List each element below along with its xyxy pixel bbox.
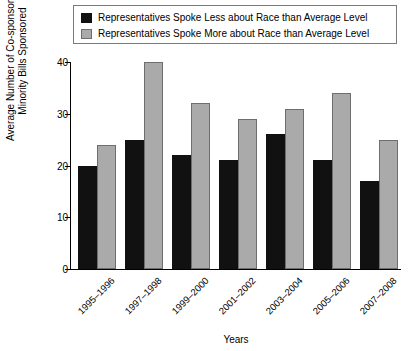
bar-spoke-less (172, 155, 191, 269)
bar-group (313, 62, 351, 269)
bar-group (125, 62, 163, 269)
bar-spoke-more (332, 93, 351, 269)
y-axis-line (70, 62, 71, 269)
legend-label-spoke-less: Representatives Spoke Less about Race th… (98, 12, 367, 23)
bar-spoke-less (313, 160, 332, 269)
y-axis-title-line-1: Average Number of Co-sponsors on (5, 0, 17, 166)
bar-chart-figure: Representatives Spoke Less about Race th… (0, 0, 411, 351)
legend-swatch-black-square (81, 13, 92, 23)
x-axis-title: Years (71, 334, 401, 345)
legend-item-spoke-more: Representatives Spoke More about Race th… (81, 26, 389, 41)
bar-group (172, 62, 210, 269)
x-tick-label: 2001–2002 (216, 275, 257, 316)
y-axis-title-line-2: Minority Bills Sponsored (17, 7, 28, 114)
bar-spoke-less (125, 140, 144, 269)
x-tick-label: 2005–2006 (311, 275, 352, 316)
x-axis-line (70, 269, 401, 270)
x-tick-label: 2007–2008 (358, 275, 399, 316)
bar-spoke-more (191, 103, 210, 269)
y-tick-label: 40 (57, 57, 68, 68)
legend-label-spoke-more: Representatives Spoke More about Race th… (98, 28, 369, 39)
x-tick-label: 1995–1996 (75, 275, 116, 316)
y-tick-label: 0 (62, 264, 68, 275)
x-tick-label: 2003–2004 (264, 275, 305, 316)
y-tick-label: 10 (57, 212, 68, 223)
bar-spoke-more (238, 119, 257, 269)
bar-group (78, 62, 116, 269)
bar-spoke-more (285, 109, 304, 269)
bar-spoke-more (379, 140, 398, 269)
bar-spoke-more (144, 62, 163, 269)
chart-legend: Representatives Spoke Less about Race th… (73, 5, 397, 44)
bar-spoke-more (97, 145, 116, 269)
bar-group (266, 62, 304, 269)
bar-spoke-less (219, 160, 238, 269)
legend-item-spoke-less: Representatives Spoke Less about Race th… (81, 10, 389, 25)
legend-swatch-gray-square (81, 29, 92, 39)
bar-group (360, 62, 398, 269)
x-tick-label: 1997–1998 (122, 275, 163, 316)
bar-spoke-less (360, 181, 379, 269)
bar-spoke-less (78, 166, 97, 270)
plot-area: 010203040 1995–19961997–19981999–2000200… (71, 62, 401, 269)
x-tick-label: 1999–2000 (169, 275, 210, 316)
y-axis-title: Average Number of Co-sponsors on Minorit… (5, 0, 29, 166)
bar-spoke-less (266, 134, 285, 269)
y-tick-label: 30 (57, 108, 68, 119)
y-tick-label: 20 (57, 160, 68, 171)
bar-group (219, 62, 257, 269)
